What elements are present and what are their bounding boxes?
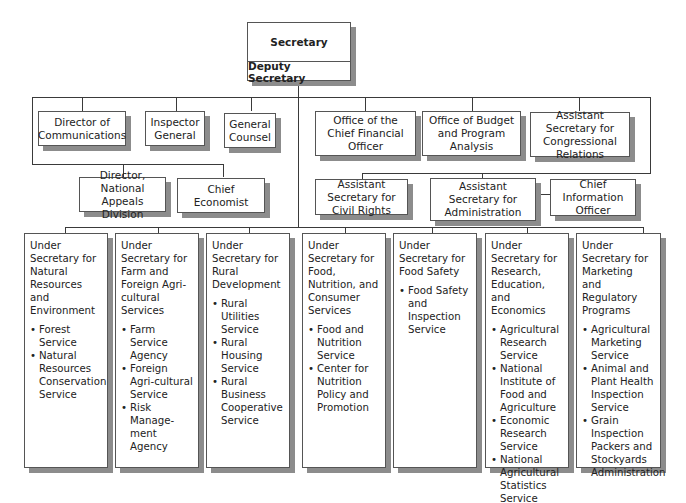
agency-list: Food Safety and Inspection Service [399, 284, 471, 336]
secretary-box: Secretary Deputy Secretary [247, 22, 351, 81]
agency-item: Rural Housing Service [212, 336, 284, 375]
agency-list: Farm Service Agency Foreign Agri-cultura… [121, 323, 193, 453]
connector [176, 97, 177, 111]
box-label: Director, National Appeals Division [83, 169, 162, 221]
agency-item: Economic Research Service [491, 414, 563, 453]
under-secretary-farm-foreign: Under Secretary for Farm and Foreign Agr… [115, 233, 199, 468]
box-label: Chief Information Officer [554, 178, 632, 217]
budget-program-analysis-box: Office of Budget and Program Analysis [422, 111, 521, 156]
agency-item: Food Safety and Inspection Service [399, 284, 471, 336]
secretary-label: Secretary [248, 23, 350, 62]
connector-left-row2 [32, 164, 224, 165]
administration-box: Assistant Secretary for Administration [430, 178, 536, 221]
box-label: Director of Communications [38, 116, 126, 142]
box-label: Assistant Secretary for Administration [434, 180, 532, 219]
box-label: General Counsel [228, 118, 272, 144]
column-title: Under Secretary for Food, Nutrition, and… [308, 239, 380, 317]
connector [365, 97, 366, 111]
agency-item: National Agricultural Statistics Service [491, 453, 563, 503]
box-label: Inspector General [149, 116, 201, 142]
general-counsel-box: General Counsel [224, 113, 276, 148]
cfo-box: Office of the Chief Financial Officer [315, 111, 416, 156]
agency-list: Agricultural Marketing Service Animal an… [582, 323, 655, 479]
under-secretary-rural-development: Under Secretary for Rural Development Ru… [206, 233, 290, 468]
chief-economist-box: Chief Economist [177, 178, 265, 213]
agency-item: Natural Resources Conservation Service [30, 349, 102, 401]
connector-top-horizontal [32, 97, 651, 98]
civil-rights-box: Assistant Secretary for Civil Rights [315, 179, 408, 215]
under-secretary-food-safety: Under Secretary for Food Safety Food Saf… [393, 233, 477, 468]
box-label: Chief Economist [181, 183, 261, 209]
agency-item: Center for Nutrition Policy and Promotio… [308, 362, 380, 414]
inspector-general-box: Inspector General [145, 111, 205, 146]
connector [82, 97, 83, 111]
column-title: Under Secretary for Food Safety [399, 239, 471, 278]
director-appeals-box: Director, National Appeals Division [79, 177, 166, 212]
deputy-secretary-label: Deputy Secretary [248, 62, 350, 81]
agency-item: Agricultural Marketing Service [582, 323, 655, 362]
connector-bottom-horizontal [65, 227, 644, 228]
under-secretary-marketing-regulatory: Under Secretary for Marketing and Regula… [576, 233, 661, 468]
agency-item: National Institute of Food and Agricultu… [491, 362, 563, 414]
agency-item: Risk Manage-ment Agency [121, 401, 193, 453]
connector [251, 97, 252, 111]
cio-box: Chief Information Officer [550, 179, 636, 216]
under-secretary-natural-resources: Under Secretary for Natural Resources an… [24, 233, 108, 468]
agency-item: Foreign Agri-cultural Service [121, 362, 193, 401]
agency-list: Rural Utilities Service Rural Housing Se… [212, 297, 284, 427]
director-communications-box: Director of Communications [38, 111, 126, 146]
agency-item: Animal and Plant Health Inspection Servi… [582, 362, 655, 414]
connector-admin-cio [536, 194, 550, 195]
column-title: Under Secretary for Marketing and Regula… [582, 239, 655, 317]
under-secretary-research-education: Under Secretary for Research, Education,… [485, 233, 569, 468]
box-label: Office of the Chief Financial Officer [319, 114, 412, 153]
column-title: Under Secretary for Rural Development [212, 239, 284, 291]
column-title: Under Secretary for Research, Education,… [491, 239, 563, 317]
connector [472, 97, 473, 111]
agency-item: Rural Business Cooperative Service [212, 375, 284, 427]
congressional-relations-box: Assistant Secretary for Congressional Re… [530, 112, 630, 157]
agency-list: Food and Nutrition Service Center for Nu… [308, 323, 380, 414]
under-secretary-food-nutrition: Under Secretary for Food, Nutrition, and… [302, 233, 386, 468]
column-title: Under Secretary for Natural Resources an… [30, 239, 102, 317]
agency-item: Forest Service [30, 323, 102, 349]
agency-item: Farm Service Agency [121, 323, 193, 362]
connector [650, 97, 651, 173]
agency-item: Food and Nutrition Service [308, 323, 380, 362]
agency-item: Agricultural Research Service [491, 323, 563, 362]
connector-right-row2 [362, 173, 651, 174]
box-label: Assistant Secretary for Congressional Re… [534, 109, 626, 161]
agency-list: Agricultural Research Service National I… [491, 323, 563, 503]
box-label: Assistant Secretary for Civil Rights [319, 178, 404, 217]
connector [223, 164, 224, 177]
connector-trunk [298, 80, 299, 227]
box-label: Office of Budget and Program Analysis [426, 114, 517, 153]
agency-item: Grain Inspection Packers and Stockyards … [582, 414, 655, 479]
agency-item: Rural Utilities Service [212, 297, 284, 336]
column-title: Under Secretary for Farm and Foreign Agr… [121, 239, 193, 317]
agency-list: Forest Service Natural Resources Conserv… [30, 323, 102, 401]
connector [32, 97, 33, 164]
